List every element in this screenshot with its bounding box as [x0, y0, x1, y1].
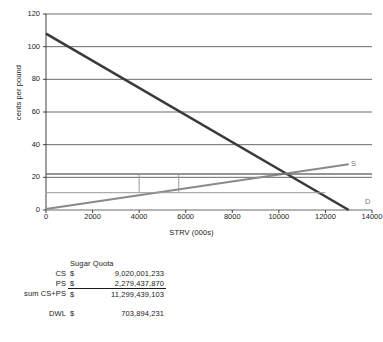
- y-tick-label-120: 120: [10, 10, 40, 18]
- table-row-currency: $: [68, 289, 82, 300]
- table-spacer-cell: [18, 299, 166, 308]
- x-tick-label-8000: 8000: [209, 213, 255, 221]
- series-S: [46, 164, 349, 209]
- y-tick-label-60: 60: [10, 108, 40, 116]
- table-row-label: PS: [18, 278, 68, 289]
- x-axis-title: STRV (000s): [0, 228, 383, 237]
- table-row-label: sum CS+PS: [18, 289, 68, 300]
- table-row: sum CS+PS$11,299,439,103: [18, 289, 166, 300]
- figure-page: cents per pound STRV (000s) 020406080100…: [0, 0, 383, 342]
- y-axis-title: cents per pound: [14, 53, 23, 133]
- supply-label: S: [351, 160, 356, 168]
- x-tick-label-6000: 6000: [163, 213, 209, 221]
- table-row-value: 2,279,437,870: [82, 278, 166, 289]
- y-tick-label-80: 80: [10, 75, 40, 83]
- table-row-value: 9,020,001,233: [82, 268, 166, 278]
- table-row-value: 703,894,231: [82, 308, 166, 318]
- x-tick-label-4000: 4000: [116, 213, 162, 221]
- series-D: [46, 34, 349, 210]
- x-tick-label-12000: 12000: [302, 213, 348, 221]
- table-header-label: Sugar Quota: [68, 258, 166, 268]
- table-header-blank: [18, 258, 68, 268]
- demand-label: D: [365, 198, 370, 206]
- summary-table: Sugar QuotaCS$9,020,001,233PS$2,279,437,…: [18, 258, 166, 318]
- x-tick-label-2000: 2000: [70, 213, 116, 221]
- table-row-currency: $: [68, 278, 82, 289]
- table-row: CS$9,020,001,233: [18, 268, 166, 278]
- summary-table-area: Sugar QuotaCS$9,020,001,233PS$2,279,437,…: [0, 248, 383, 342]
- table-row-value: 11,299,439,103: [82, 289, 166, 300]
- table-row-label: DWL: [18, 308, 68, 318]
- plot-canvas: [0, 0, 383, 245]
- table-row: DWL$703,894,231: [18, 308, 166, 318]
- table-header-row: Sugar Quota: [18, 258, 166, 268]
- table-spacer-row: [18, 299, 166, 308]
- x-tick-label-14000: 14000: [349, 213, 383, 221]
- table-row-currency: $: [68, 268, 82, 278]
- x-tick-label-10000: 10000: [256, 213, 302, 221]
- table-row: PS$2,279,437,870: [18, 278, 166, 289]
- table-row-currency: $: [68, 308, 82, 318]
- y-tick-label-100: 100: [10, 43, 40, 51]
- x-tick-label-0: 0: [23, 213, 69, 221]
- y-tick-label-20: 20: [10, 173, 40, 181]
- chart: cents per pound STRV (000s) 020406080100…: [0, 0, 383, 245]
- y-tick-label-40: 40: [10, 141, 40, 149]
- table-row-label: CS: [18, 268, 68, 278]
